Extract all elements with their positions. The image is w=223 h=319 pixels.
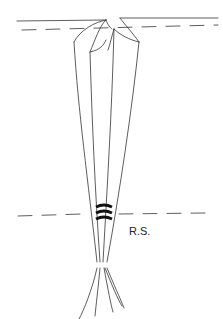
top-edge-left — [17, 20, 106, 21]
gathered-fabric-illustration — [0, 0, 223, 319]
top-seam-dashed — [22, 25, 218, 30]
right-side-label: R.S. — [129, 225, 150, 237]
thread-binding-icon — [96, 205, 112, 219]
bottom-seam-dashed — [18, 214, 82, 216]
